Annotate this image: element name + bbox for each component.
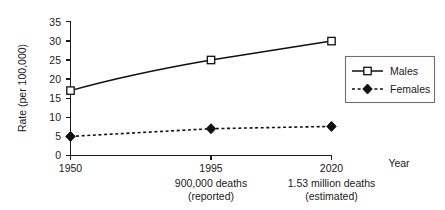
series-line-females [71,126,332,136]
y-tick-label-35: 35 [49,16,61,28]
y-tick-label-10: 10 [49,111,61,123]
chart-container: 0 5 10 15 20 25 30 35 Rate (per 100,000)… [0,0,445,210]
chart-legend: Males Females [346,57,435,103]
data-point-females-2020 [327,121,336,131]
data-point-males-2020 [328,37,335,44]
series-line-males [71,41,332,91]
x-tick-label-1950: 1950 [59,162,83,174]
legend-box [346,57,435,103]
y-axis-title: Rate (per 100,000) [16,44,28,132]
y-tick-label-25: 25 [49,54,61,66]
y-tick-label-30: 30 [49,35,61,47]
annotation-2020-line1: 1.53 million deaths [288,177,376,189]
annotation-1995-line1: 900,000 deaths [175,177,247,189]
x-axis-title: Year [388,157,410,169]
y-tick-label-5: 5 [55,130,61,142]
legend-marker-open-square [364,67,371,74]
data-point-females-1995 [206,124,215,134]
legend-label-males: Males [390,65,418,77]
x-tick-label-2020: 2020 [320,162,344,174]
line-chart: 0 5 10 15 20 25 30 35 Rate (per 100,000)… [0,0,445,210]
data-point-males-1995 [207,56,214,63]
x-tick-label-1995: 1995 [199,162,223,174]
data-point-females-1950 [66,131,75,141]
y-tick-label-20: 20 [49,73,61,85]
data-point-males-1950 [67,87,74,94]
annotation-2020-line2: (estimated) [305,190,358,202]
legend-label-females: Females [390,83,430,95]
annotation-1995-line2: (reported) [188,190,234,202]
y-tick-label-0: 0 [55,149,61,161]
y-tick-label-15: 15 [49,92,61,104]
